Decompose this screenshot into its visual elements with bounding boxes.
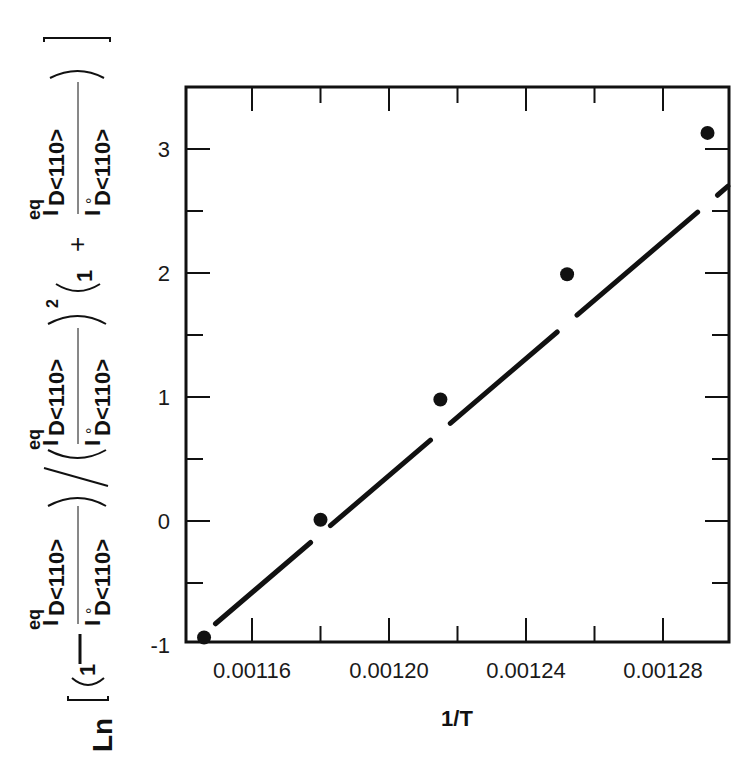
ylabel-fraction-3: I eq D<110> I ° D<110>: [24, 82, 115, 220]
svg-text:D<110>: D<110>: [44, 129, 69, 206]
ylabel-slash: [44, 468, 108, 486]
ylabel-paren: [72, 678, 104, 685]
x-tick-label: 0.00128: [623, 658, 703, 683]
plot-frame: [186, 87, 729, 642]
svg-text:1: 1: [75, 664, 100, 676]
fit-line-segment: [330, 440, 430, 525]
fit-line-segment: [215, 543, 310, 624]
x-axis-tick-labels: 0.001160.001200.001240.00128: [213, 658, 703, 683]
data-points: [197, 126, 714, 645]
svg-text:I: I: [80, 440, 105, 446]
y-tick-label: -1: [150, 633, 170, 658]
svg-text:2: 2: [44, 299, 61, 308]
svg-text:+: +: [62, 237, 92, 252]
ylabel-bracket-left: [68, 696, 108, 700]
data-point: [314, 513, 328, 527]
y-tick-label: 3: [158, 137, 170, 162]
fit-line-segment: [577, 212, 698, 315]
y-axis-tick-labels: -10123: [150, 137, 170, 658]
ylabel-fraction-2: I eq D<110> I ° D<110>: [24, 328, 115, 450]
data-point: [560, 267, 574, 281]
y-tick-label: 0: [158, 509, 170, 534]
fit-line-segment: [450, 332, 557, 423]
y-axis-title: Ln 1 I eq D<110> I ° D<110> I eq D<110> …: [24, 38, 118, 752]
fit-line-segment: [717, 186, 728, 195]
data-point: [197, 631, 211, 645]
svg-text:I: I: [80, 620, 105, 626]
svg-text:D<110>: D<110>: [90, 359, 115, 436]
x-tick-label: 0.00124: [486, 658, 566, 683]
svg-text:eq: eq: [24, 199, 44, 220]
y-axis-ticks: [186, 149, 729, 583]
x-tick-label: 0.00120: [349, 658, 429, 683]
x-tick-label: 0.00116: [213, 658, 291, 683]
y-tick-label: 1: [158, 385, 170, 410]
svg-text:D<110>: D<110>: [44, 359, 69, 436]
ylabel-bracket-right: [44, 38, 110, 42]
x-axis-title: 1/T: [441, 706, 473, 731]
ylabel-ln: Ln: [87, 718, 118, 752]
data-point: [433, 392, 447, 406]
data-point: [701, 126, 715, 140]
y-tick-label: 2: [158, 261, 170, 286]
svg-text:D<110>: D<110>: [44, 539, 69, 616]
svg-text:I: I: [80, 210, 105, 216]
svg-text:eq: eq: [24, 609, 44, 630]
fit-line: [215, 186, 728, 624]
ylabel-fraction-1: I eq D<110> I ° D<110>: [24, 506, 115, 630]
x-axis-ticks: [252, 87, 663, 642]
svg-text:D<110>: D<110>: [90, 129, 115, 206]
chart: 0.001160.001200.001240.00128 -10123 1/T …: [0, 0, 749, 768]
svg-text:eq: eq: [24, 429, 44, 450]
svg-text:1: 1: [72, 270, 97, 282]
svg-text:D<110>: D<110>: [90, 539, 115, 616]
